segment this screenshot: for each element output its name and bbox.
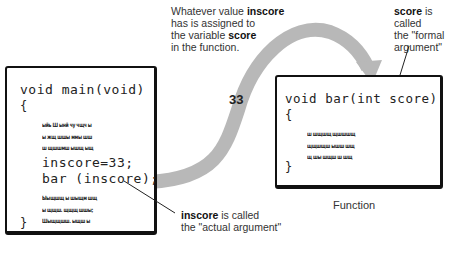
actual-argument-annotation: inscore is called the "actual argument" — [181, 209, 281, 233]
